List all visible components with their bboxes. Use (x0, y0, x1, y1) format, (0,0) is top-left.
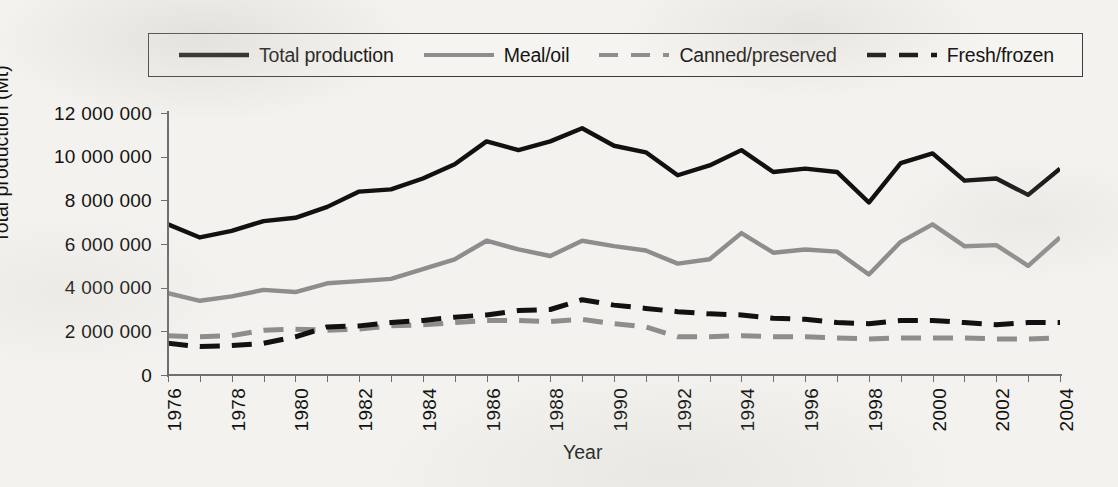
x-axis-tick (582, 375, 583, 382)
line-swatch-dashed-gray (597, 48, 671, 62)
x-axis-tick (710, 375, 711, 382)
x-axis-line (167, 374, 1062, 376)
y-axis-tick-label: 8 000 000 (65, 190, 152, 212)
x-axis-tick (359, 375, 360, 382)
series-line (168, 300, 1060, 347)
y-axis-tick-label: 2 000 000 (65, 321, 152, 343)
x-axis-tick (933, 375, 934, 382)
chart-legend: Total productionMeal/oilCanned/preserved… (148, 33, 1083, 77)
x-axis-tick-label: 1984 (419, 388, 441, 431)
x-axis-tick-label: 1986 (483, 388, 505, 431)
x-axis-tick (805, 375, 806, 382)
series-layer (168, 113, 1060, 375)
x-axis-tick-label: 2004 (1056, 388, 1078, 431)
x-axis-tick (232, 375, 233, 382)
x-axis-tick (487, 375, 488, 382)
legend-label: Fresh/frozen (947, 44, 1054, 67)
x-axis-tick (518, 375, 519, 382)
x-axis-tick (741, 375, 742, 382)
y-axis-tick-label: 4 000 000 (65, 277, 152, 299)
y-axis-tick-label: 12 000 000 (54, 103, 152, 125)
x-axis-tick (455, 375, 456, 382)
x-axis-tick-label: 1992 (674, 388, 696, 431)
y-axis-tick-label: 0 (141, 365, 152, 387)
line-swatch-solid-gray (422, 48, 496, 62)
x-axis-tick (614, 375, 615, 382)
y-axis-tick-label: 6 000 000 (65, 234, 152, 256)
x-axis-tick (869, 375, 870, 382)
x-axis-tick (773, 375, 774, 382)
x-axis-tick (264, 375, 265, 382)
legend-label: Total production (259, 44, 393, 67)
legend-item: Meal/oil (422, 44, 570, 67)
x-axis-tick-label: 2002 (992, 388, 1014, 431)
x-axis-tick-label: 1980 (291, 388, 313, 431)
x-axis-tick-label: 1988 (546, 388, 568, 431)
y-axis-tick-label: 10 000 000 (54, 146, 152, 168)
x-axis-title: Year (563, 441, 602, 464)
x-axis-tick (964, 375, 965, 382)
x-axis-tick (996, 375, 997, 382)
legend-item: Total production (177, 44, 393, 67)
x-axis-tick (550, 375, 551, 382)
legend-label: Canned/preserved (679, 44, 836, 67)
x-axis-tick (391, 375, 392, 382)
plot-area: 02 000 0004 000 0006 000 0008 000 00010 … (168, 113, 1060, 375)
x-axis-tick (837, 375, 838, 382)
x-axis-tick (327, 375, 328, 382)
x-axis-tick (1060, 375, 1061, 382)
x-axis-tick-label: 1982 (355, 388, 377, 431)
x-axis-tick-label: 1990 (610, 388, 632, 431)
x-axis-tick (646, 375, 647, 382)
series-line (168, 224, 1060, 300)
x-axis-tick-label: 1978 (228, 388, 250, 431)
x-axis-tick-label: 1994 (737, 388, 759, 431)
x-axis-tick-label: 1976 (164, 388, 186, 431)
x-axis-tick (678, 375, 679, 382)
line-chart-figure: Total productionMeal/oilCanned/preserved… (0, 0, 1118, 487)
legend-label: Meal/oil (504, 44, 570, 67)
y-axis-title: Total production (Mt) (0, 65, 13, 243)
line-swatch-dashed-black (865, 48, 939, 62)
line-swatch-solid-black (177, 48, 251, 62)
x-axis-tick-label: 1996 (801, 388, 823, 431)
x-axis-tick-label: 2000 (929, 388, 951, 431)
x-axis-tick (200, 375, 201, 382)
x-axis-tick (295, 375, 296, 382)
x-axis-tick (1028, 375, 1029, 382)
x-axis-tick (423, 375, 424, 382)
y-axis-line (167, 111, 169, 377)
series-line (168, 128, 1060, 237)
x-axis-tick-label: 1998 (865, 388, 887, 431)
x-axis-tick (901, 375, 902, 382)
legend-item: Canned/preserved (597, 44, 836, 67)
legend-item: Fresh/frozen (865, 44, 1054, 67)
